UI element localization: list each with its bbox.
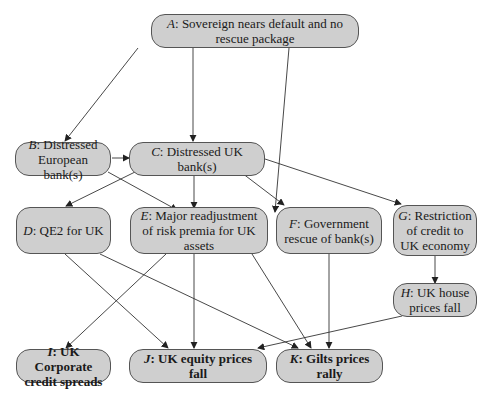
- node-b: B: Distressed European bank(s): [15, 142, 111, 176]
- node-b-text: : Distressed European bank(s): [36, 137, 97, 182]
- node-h-letter: H: [401, 285, 410, 300]
- node-g-letter: G: [398, 208, 407, 223]
- node-i: I: UK Corporate credit spreads: [16, 349, 111, 383]
- node-a-letter: A: [167, 16, 175, 31]
- edge-a-e: [275, 48, 289, 212]
- node-d-letter: D: [23, 223, 32, 238]
- edge-e-k: [252, 254, 311, 348]
- node-c-letter: C: [151, 144, 160, 159]
- edge-a-b: [65, 48, 138, 141]
- node-c-text: : Distressed UK bank(s): [160, 144, 243, 174]
- edge-b-e: [108, 172, 177, 210]
- node-j: J: UK equity prices fall: [129, 349, 267, 383]
- causal-diagram: A: Sovereign nears default and no rescue…: [0, 0, 492, 394]
- node-k-text: : Gilts prices rally: [298, 351, 369, 381]
- edges-layer: [0, 0, 492, 394]
- node-g: G: Restriction of credit to UK economy: [393, 205, 477, 256]
- edge-c-g: [262, 158, 401, 204]
- node-h: H: UK house prices fall: [393, 283, 477, 317]
- node-f: F: Government rescue of bank(s): [276, 207, 382, 254]
- node-f-text: : Government rescue of bank(s): [284, 216, 374, 246]
- node-j-text: : UK equity prices fall: [151, 351, 252, 381]
- node-k: K: Gilts prices rally: [276, 349, 383, 383]
- node-h-text: : UK house prices fall: [409, 285, 469, 315]
- node-f-letter: F: [289, 216, 297, 231]
- node-i-text: : UK Corporate credit spreads: [25, 344, 103, 389]
- node-a: A: Sovereign nears default and no rescue…: [151, 14, 359, 48]
- node-g-text: : Restriction of credit to UK economy: [400, 208, 472, 253]
- node-d-text: : QE2 for UK: [33, 223, 104, 238]
- node-e: E: Major readjustment of risk premia for…: [130, 207, 268, 254]
- node-c: C: Distressed UK bank(s): [129, 142, 265, 176]
- node-d: D: QE2 for UK: [16, 207, 111, 254]
- edge-h-j: [258, 316, 402, 348]
- node-a-text: : Sovereign nears default and no rescue …: [175, 16, 343, 46]
- edge-d-k: [100, 254, 298, 348]
- node-e-text: : Major readjustment of risk premia for …: [142, 208, 257, 253]
